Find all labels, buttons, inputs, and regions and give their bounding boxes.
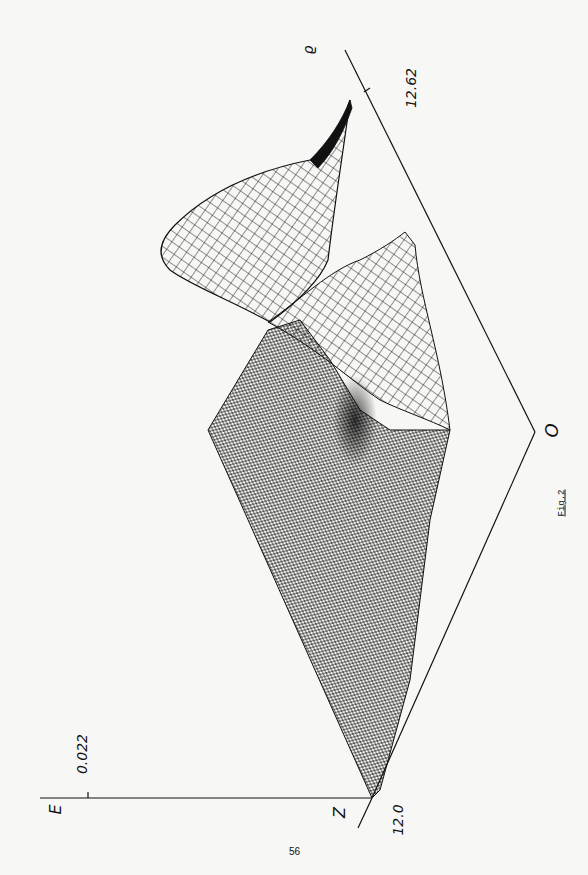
rho-axis-label: ϱ: [300, 46, 316, 55]
e-axis-tick-label: 0.022: [74, 734, 90, 774]
page-number: 56: [289, 846, 300, 857]
rho-axis-max-label: 12.62: [403, 68, 419, 108]
e-axis-label: E: [46, 804, 65, 814]
origin-label: O: [541, 423, 562, 437]
figure-caption: Fig.2: [557, 489, 567, 516]
z-axis-max-label: 12.0: [390, 804, 406, 835]
z-axis-label: Z: [330, 807, 349, 818]
z-axis-stub: [358, 798, 372, 828]
